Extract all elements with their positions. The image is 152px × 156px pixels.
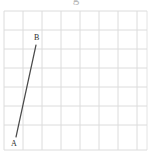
- grid-vertical-lines: [4, 11, 147, 150]
- point-label-a: A: [11, 140, 17, 148]
- point-label-b: B: [34, 34, 39, 42]
- figure-canvas: g A B: [0, 0, 152, 156]
- grid-horizontal-lines: [4, 11, 147, 150]
- grid-and-segment-svg: [0, 0, 152, 156]
- line-segment-ab: [16, 45, 36, 137]
